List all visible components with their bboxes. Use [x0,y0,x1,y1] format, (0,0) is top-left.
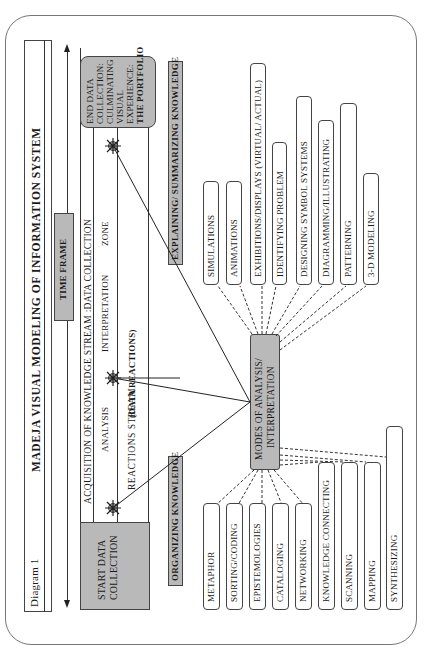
item-mapping-label: MAPPING [367,560,377,602]
item-exhibitions-label: EXHIBITIONS/DISPLAYS (VIRTUAL/ ACTUAL) [253,80,263,277]
item-designing-symbol-systems-label: DESIGNING SYMBOL SYSTEMS [299,141,309,277]
sun-star-icon [109,142,118,513]
item-sorting-coding-label: SORTING/CODING [229,523,239,602]
item-cataloging-label: CATALOGING [275,543,285,602]
item-epistemologies-label: EPISTEMOLOGIES [252,523,262,602]
item-diagramming-label: DIAGRAMMING/ILLUSTRATING [321,139,331,277]
item-knowledge-connecting-label: KNOWLEDGE CONNECTING [321,480,331,602]
item-synthesizing-label: SYNTHESIZING [389,535,399,602]
item-networking-label: NETWORKING [298,539,308,602]
item-3d-modeling-label: 3-D MODELING [366,210,376,277]
item-metaphor-label: METAPHOR [206,552,216,602]
item-animations-label: ANIMATIONS [229,219,239,277]
item-scanning-label: SCANNING [344,554,354,602]
item-simulations-label: SIMULATIONS [206,215,216,277]
item-identifying-problem-label: IDENTIFYING PROBLEM [275,171,285,277]
item-patterning-label: PATTERNING [343,220,353,277]
